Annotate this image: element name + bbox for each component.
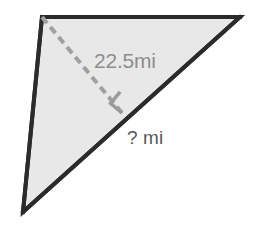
triangle-diagram-svg [0, 0, 254, 227]
unknown-length-label: ? mi [127, 128, 163, 147]
altitude-length-label: 22.5mi [94, 50, 156, 71]
geometry-figure: 22.5mi ? mi [0, 0, 254, 227]
